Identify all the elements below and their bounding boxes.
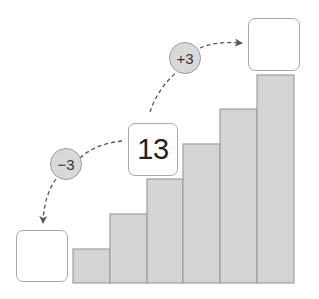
bar-5 [220,109,257,283]
arrow-down-icon [43,179,56,222]
bar-6 [257,75,294,283]
bar-4 [183,144,220,283]
left-answer-box[interactable] [16,230,68,282]
arrow-up-path [150,72,177,112]
minus-three-badge: −3 [50,148,82,180]
bar-1 [73,249,110,283]
middle-number-box: 13 [128,123,178,176]
arrow-down-path [80,141,122,158]
bar-2 [110,214,147,283]
arrow-right-icon [200,43,241,48]
bars [73,75,294,283]
plus-three-badge: +3 [169,42,201,74]
middle-box-value: 13 [137,133,168,166]
minus-three-label: −3 [57,156,74,173]
right-answer-box[interactable] [248,18,300,71]
plus-three-label: +3 [176,50,193,67]
bar-3 [147,179,183,283]
